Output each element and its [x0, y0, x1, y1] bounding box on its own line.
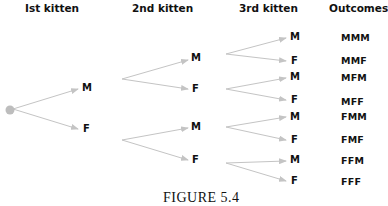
- node-l3-mmm: M: [290, 31, 300, 42]
- outcome-mfm: MFM: [341, 72, 367, 83]
- node-l2-mf: F: [192, 83, 199, 94]
- outcome-fmm: FMM: [341, 111, 367, 122]
- node-l2-fm: M: [191, 121, 201, 132]
- node-l3-fmm: M: [290, 111, 300, 122]
- node-l3-mff: F: [291, 94, 298, 105]
- outcome-mmm: MMM: [341, 32, 370, 43]
- node-l1-m: M: [82, 82, 92, 93]
- root-node-dot: [6, 106, 15, 115]
- outcome-ffm: FFM: [341, 155, 364, 166]
- header-third-kitten: 3rd kitten: [239, 2, 298, 14]
- outcome-fmf: FMF: [341, 134, 364, 145]
- node-l3-mfm: M: [290, 71, 300, 82]
- header-second-kitten: 2nd kitten: [132, 2, 193, 14]
- outcome-fff: FFF: [341, 176, 361, 187]
- figure-caption: FIGURE 5.4: [163, 190, 240, 206]
- node-l1-f: F: [83, 123, 90, 134]
- outcome-mmf: MMF: [341, 55, 367, 66]
- node-l3-fff: F: [291, 175, 298, 186]
- header-outcomes: Outcomes: [329, 2, 388, 14]
- header-first-kitten: Ist kitten: [25, 2, 79, 14]
- node-l2-mm: M: [191, 52, 201, 63]
- node-l3-mmf: F: [291, 55, 298, 66]
- node-l3-fmf: F: [291, 134, 298, 145]
- node-l3-ffm: M: [290, 154, 300, 165]
- outcome-mff: MFF: [341, 96, 364, 107]
- node-l2-ff: F: [192, 154, 199, 165]
